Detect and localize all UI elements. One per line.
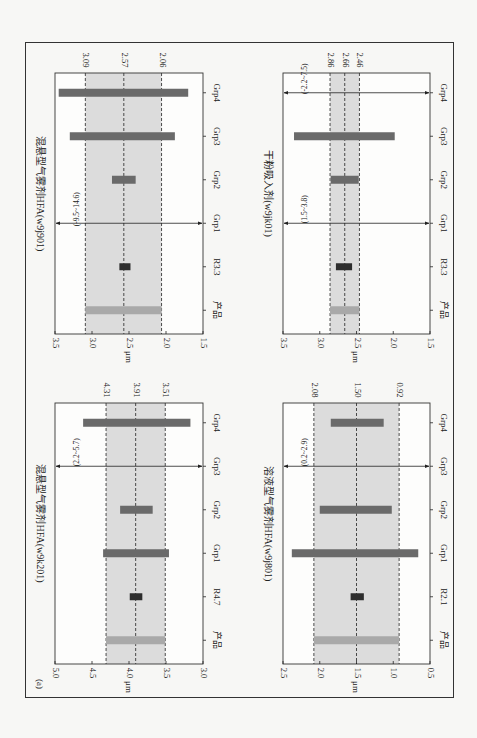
figure-label: (a)	[35, 679, 45, 689]
offscale-range-annotation: (-2.2~7.5)	[300, 63, 309, 94]
value-tick-label: 3.5	[51, 338, 61, 349]
category-label: Grp4	[439, 414, 449, 433]
value-tick-label: 4.0	[125, 668, 135, 679]
category-label: Grp2	[439, 501, 449, 520]
category-label: Grp3	[439, 127, 449, 146]
range-bar-R4.7	[130, 593, 143, 600]
category-label: Grp3	[212, 457, 222, 476]
range-bar-Grp2	[320, 506, 392, 514]
category-label: Grp3	[212, 127, 222, 146]
value-tick-label: 3.0	[199, 668, 209, 679]
category-label: Grp3	[439, 457, 449, 476]
category-label: Grp1	[439, 544, 449, 563]
value-tick-label: 1.0	[389, 668, 399, 679]
range-bar-R3.3	[119, 263, 130, 270]
value-tick-label: 3.0	[316, 338, 326, 349]
category-label: Grp1	[212, 544, 222, 563]
panel-title: 混悬型气雾剂HFA(w9k201)	[34, 464, 47, 582]
category-label: 产品	[212, 301, 223, 319]
value-tick-label: 0.5	[426, 668, 436, 679]
category-label: R3.3	[439, 258, 449, 276]
panel-title: 溶液型气雾剂HFA(w9j801)	[262, 466, 275, 582]
range-bar-产品	[106, 636, 165, 644]
value-tick-label: 4.5	[88, 668, 98, 679]
figure-page: 3.092.572.06产品R3.3(-9.5~14.6)Grp1Grp2Grp…	[0, 0, 477, 738]
reference-value-label: 3.91	[132, 383, 142, 398]
value-tick-label: 1.5	[426, 338, 436, 349]
reference-value-label: 2.46	[355, 53, 365, 68]
reference-value-label: 2.08	[310, 383, 320, 398]
offscale-range-annotation: (1.5~3.8)	[300, 195, 309, 223]
panel-title: 混悬型气雾剂HFA(w9j901)	[34, 136, 47, 252]
range-bar-Grp1	[103, 549, 169, 557]
value-tick-label: 3.5	[279, 338, 289, 349]
range-bar-Grp4	[83, 419, 190, 427]
rotated-figure: 3.092.572.06产品R3.3(-9.5~14.6)Grp1Grp2Grp…	[0, 0, 477, 738]
reference-value-label: 2.86	[326, 53, 336, 68]
value-axis-label: μm	[124, 681, 134, 693]
offscale-range-annotation: (2.2~5.7)	[72, 438, 81, 466]
category-label: Grp2	[212, 171, 222, 190]
range-bar-Grp3	[294, 132, 395, 140]
reference-value-label: 4.31	[102, 383, 112, 398]
category-label: Grp4	[439, 84, 449, 103]
range-bar-产品	[85, 306, 161, 314]
value-tick-label: 2.0	[316, 668, 326, 679]
chart-panel-bottom-left: 4.313.913.51产品R4.7Grp1Grp2(2.2~5.7)Grp3G…	[34, 383, 223, 693]
range-bar-Grp2	[120, 506, 153, 514]
chart-panel-bottom-right: 2.081.500.92产品R2.1Grp1Grp2(0.2~2.9)Grp3G…	[262, 383, 450, 693]
reference-value-label: 1.50	[353, 383, 363, 398]
reference-value-label: 3.51	[161, 383, 171, 398]
range-bar-R2.1	[351, 593, 364, 600]
range-bar-Grp2	[331, 176, 359, 184]
category-label: R3.3	[212, 258, 222, 276]
value-axis-label: μm	[124, 351, 134, 363]
reference-value-label: 2.06	[158, 53, 168, 68]
value-tick-label: 2.0	[389, 338, 399, 349]
value-axis-label: μm	[351, 681, 361, 693]
value-tick-label: 1.5	[199, 338, 209, 349]
value-tick-label: 2.5	[279, 668, 289, 679]
value-tick-label: 2.0	[162, 338, 172, 349]
category-label: R2.1	[439, 588, 449, 605]
category-label: Grp2	[439, 171, 449, 190]
value-tick-label: 2.5	[353, 338, 363, 349]
offscale-range-annotation: (-9.5~14.6)	[72, 192, 81, 227]
chart-panel-top-right: 2.862.662.46产品R3.3(1.5~3.8)Grp1Grp2Grp3(…	[262, 53, 450, 363]
offscale-range-annotation: (0.2~2.9)	[300, 438, 309, 466]
chart-panel-top-left: 3.092.572.06产品R3.3(-9.5~14.6)Grp1Grp2Grp…	[34, 53, 223, 363]
range-bar-产品	[330, 306, 359, 314]
panel-title: 干粉吸入剂(w9jk01)	[262, 150, 275, 237]
category-label: 产品	[212, 631, 223, 649]
range-bar-Grp2	[112, 176, 136, 184]
category-label: R4.7	[212, 588, 222, 606]
category-label: 产品	[439, 301, 450, 319]
value-tick-label: 3.5	[162, 668, 172, 679]
value-tick-label: 3.0	[88, 338, 98, 349]
value-axis-label: μm	[351, 351, 361, 363]
value-tick-label: 5.0	[51, 668, 61, 679]
range-bar-R3.3	[336, 263, 352, 270]
range-bar-Grp3	[70, 132, 175, 140]
range-bar-Grp4	[59, 89, 189, 97]
category-label: Grp1	[212, 214, 222, 233]
category-label: Grp1	[439, 214, 449, 233]
category-label: Grp4	[212, 84, 222, 103]
range-bar-Grp4	[331, 419, 384, 427]
reference-value-label: 2.57	[120, 53, 130, 68]
range-bar-产品	[314, 636, 399, 644]
reference-value-label: 3.09	[81, 53, 91, 68]
value-tick-label: 1.5	[353, 668, 363, 679]
category-label: Grp4	[212, 414, 222, 433]
range-bar-Grp1	[292, 549, 418, 557]
category-label: Grp2	[212, 501, 222, 520]
reference-value-label: 0.92	[395, 383, 405, 398]
category-label: 产品	[439, 631, 450, 649]
reference-value-label: 2.66	[341, 53, 351, 68]
value-tick-label: 2.5	[125, 338, 135, 349]
